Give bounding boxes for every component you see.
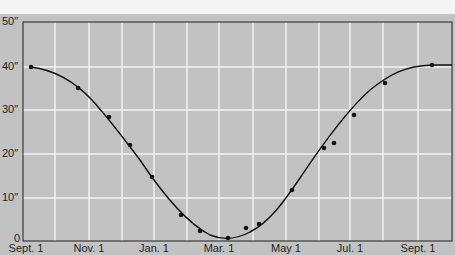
chart-plot bbox=[0, 0, 455, 255]
x-tick-sept-1-end: Sept. 1 bbox=[401, 243, 436, 254]
fitted-curve bbox=[31, 65, 452, 238]
y-tick-20: 20″ bbox=[2, 148, 18, 159]
y-tick-50: 50″ bbox=[2, 16, 18, 27]
x-tick-mar-1: Mar. 1 bbox=[204, 243, 235, 254]
x-tick-jul-1: Jul. 1 bbox=[337, 243, 363, 254]
y-tick-30: 30″ bbox=[2, 104, 18, 115]
x-tick-sept-1: Sept. 1 bbox=[9, 243, 44, 254]
x-tick-nov-1: Nov. 1 bbox=[74, 243, 105, 254]
x-tick-jan-1: Jan. 1 bbox=[139, 243, 169, 254]
grid-lines bbox=[23, 22, 452, 241]
y-tick-10: 10″ bbox=[2, 192, 18, 203]
x-tick-may-1: May 1 bbox=[271, 243, 301, 254]
y-tick-40: 40″ bbox=[2, 61, 18, 72]
plot-frame bbox=[23, 22, 452, 241]
